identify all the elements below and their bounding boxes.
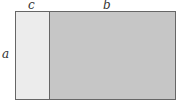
label-b: b — [103, 0, 111, 11]
label-a: a — [2, 48, 9, 60]
rectangle-left-part-c — [16, 12, 50, 99]
label-c: c — [28, 0, 35, 11]
rectangle-right-part-b — [50, 12, 175, 99]
rectangle — [15, 11, 176, 100]
